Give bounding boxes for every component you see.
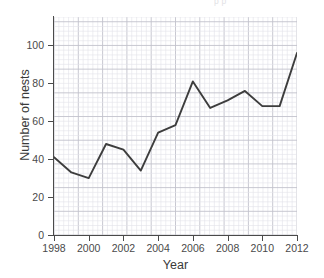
x-tick-mark [297,236,298,241]
y-tick-mark [48,45,53,46]
x-axis-title: Year [54,258,297,272]
x-tick-mark [228,236,229,241]
clipped-top-caption: p p [214,0,324,8]
x-axis-line [53,235,298,236]
x-tick-mark [262,236,263,241]
y-axis-title: Number of nests [18,45,32,185]
y-tick-label: 20 [4,192,44,202]
y-tick-mark [48,159,53,160]
y-tick-mark [48,197,53,198]
line-chart-figure: p p 020406080100 19982000200220042006200… [0,0,324,278]
plot-area [54,17,297,235]
x-tick-mark [123,236,124,241]
y-axis-line [53,16,54,236]
x-tick-mark [193,236,194,241]
x-tick-mark [54,236,55,241]
data-series-line [54,17,297,235]
y-tick-mark [48,121,53,122]
y-tick-label: 0 [4,230,44,240]
y-tick-mark [48,83,53,84]
x-tick-mark [89,236,90,241]
y-tick-mark [48,235,53,236]
x-tick-label: 2012 [277,243,317,254]
x-tick-mark [158,236,159,241]
